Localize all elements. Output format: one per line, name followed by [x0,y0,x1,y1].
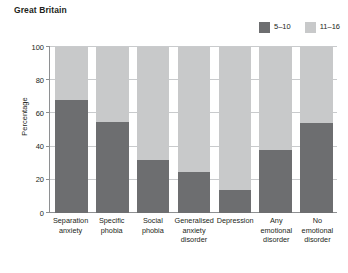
y-tick-0 [46,212,50,213]
y-tick-label-0: 0 [40,209,44,217]
y-tick-100 [46,46,50,47]
y-tick-label-100: 100 [31,43,44,51]
bar-column[interactable] [259,47,292,213]
y-tick-label-60: 60 [36,110,44,118]
bar-column[interactable] [219,47,252,213]
bar-segment-5-10[interactable] [219,190,252,213]
bar-segment-5-10[interactable] [96,122,129,213]
y-tick-label-20: 20 [36,176,44,184]
bar-segment-11-16[interactable] [300,47,333,123]
chart-legend: 5–10 11–16 [259,21,340,33]
legend-swatch-5-10 [259,22,270,33]
bar-segment-11-16[interactable] [137,47,170,160]
y-tick-80 [46,79,50,80]
bar-segment-5-10[interactable] [137,160,170,213]
bar-segment-5-10[interactable] [259,150,292,213]
y-tick-40 [46,146,50,147]
y-tick-20 [46,179,50,180]
x-axis-label: Social phobia [133,216,172,235]
legend-label-11-16: 11–16 [320,23,340,31]
bar-column[interactable] [300,47,333,213]
bar-group [51,47,337,213]
x-axis-tick-labels: Separation anxietySpecific phobiaSocial … [50,216,338,271]
plot-area [49,47,337,213]
y-tick-label-40: 40 [36,143,44,151]
chart-title: Great Britain [14,5,67,15]
chart-container: Great Britain 5–10 11–16 Percentage 0204… [0,0,348,273]
bar-segment-11-16[interactable] [55,47,88,100]
x-axis-label: No emotional disorder [298,216,337,245]
y-tick-60 [46,112,50,113]
legend-item-5-10[interactable]: 5–10 [259,22,291,33]
bar-segment-5-10[interactable] [178,172,211,214]
bar-segment-5-10[interactable] [55,100,88,213]
bar-segment-11-16[interactable] [178,47,211,172]
bar-segment-11-16[interactable] [259,47,292,150]
bar-column[interactable] [137,47,170,213]
bar-segment-11-16[interactable] [219,47,252,190]
x-axis-label: Separation anxiety [51,216,90,235]
bar-segment-5-10[interactable] [300,123,333,213]
legend-label-5-10: 5–10 [274,23,291,31]
bar-column[interactable] [96,47,129,213]
plot-inner [50,47,337,213]
x-axis-label: Generalised anxiety disorder [175,216,214,245]
y-tick-label-80: 80 [36,76,44,84]
bar-column[interactable] [178,47,211,213]
x-axis-label: Any emotional disorder [257,216,296,245]
bar-segment-11-16[interactable] [96,47,129,122]
legend-item-11-16[interactable]: 11–16 [305,22,340,33]
legend-swatch-11-16 [305,22,316,33]
bar-column[interactable] [55,47,88,213]
x-axis-label: Specific phobia [92,216,131,235]
y-axis-tick-labels: 020406080100 [23,47,44,213]
x-axis-label: Depression [216,216,255,226]
